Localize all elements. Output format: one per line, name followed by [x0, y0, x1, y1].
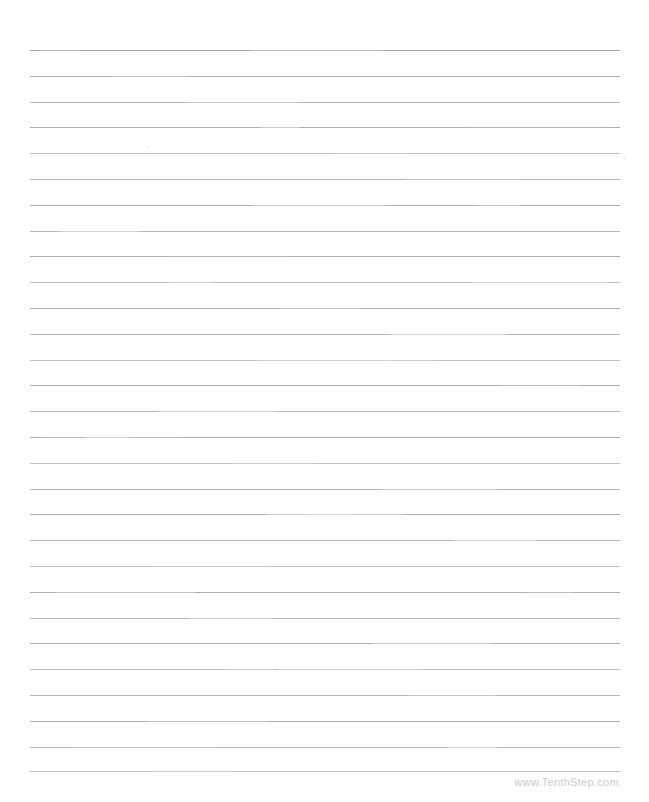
rule-line-fade-segment — [226, 669, 274, 670]
rule-line — [30, 127, 620, 128]
rule-line-fade-segment — [188, 618, 272, 619]
rule-line-fade-segment — [453, 540, 536, 541]
rule-line-fade-segment — [472, 282, 606, 283]
rule-line-fade-segment — [390, 334, 507, 335]
rule-line — [30, 282, 620, 283]
rule-line — [30, 360, 620, 361]
rule-line — [30, 463, 620, 464]
rule-line — [30, 669, 620, 670]
rule-line — [30, 721, 620, 722]
rule-line-fade-segment — [405, 179, 520, 180]
rule-line-fade-segment — [410, 695, 495, 696]
rule-line-fade-segment — [448, 747, 497, 748]
rule-line-fade-segment — [279, 669, 418, 670]
rule-line-fade-segment — [40, 50, 80, 51]
rule-line — [30, 695, 620, 696]
rule-line-fade-segment — [113, 76, 190, 77]
rule-line — [30, 514, 620, 515]
rule-line-fade-segment — [332, 153, 410, 154]
rule-line — [30, 205, 620, 206]
rule-line-fade-segment — [186, 102, 300, 103]
rule-line-fade-segment — [251, 50, 382, 51]
rule-line — [30, 102, 620, 103]
rule-line-fade-segment — [44, 437, 180, 438]
rule-line — [30, 256, 620, 257]
rule-line-fade-segment — [470, 127, 602, 128]
rule-line — [30, 76, 620, 77]
rule-line-fade-segment — [527, 592, 574, 593]
rule-line-fade-segment — [379, 489, 498, 490]
rule-line — [30, 747, 620, 748]
rule-line-fade-segment — [478, 205, 520, 206]
rule-line — [30, 540, 620, 541]
rule-line-fade-segment — [232, 463, 314, 464]
rule-line — [30, 771, 620, 772]
rule-line-fade-segment — [266, 514, 403, 515]
rule-line-fade-segment — [259, 127, 300, 128]
rule-line-fade-segment — [148, 771, 234, 772]
rule-line — [30, 489, 620, 490]
rule-line — [30, 566, 620, 567]
rule-line — [30, 334, 620, 335]
rule-line-fade-segment — [60, 231, 139, 232]
rule-line — [30, 153, 620, 154]
rule-line — [30, 618, 620, 619]
rule-line-fade-segment — [146, 721, 268, 722]
rule-line — [30, 437, 620, 438]
rule-line-fade-segment — [252, 205, 385, 206]
rule-line-fade-segment — [170, 282, 213, 283]
rule-line — [30, 179, 620, 180]
rule-line-fade-segment — [150, 566, 270, 567]
rule-line-fade-segment — [72, 747, 212, 748]
rule-line — [30, 643, 620, 644]
ruled-lines-group — [0, 0, 649, 802]
rule-line — [30, 385, 620, 386]
rule-line-fade-segment — [170, 256, 286, 257]
rule-line-fade-segment — [280, 308, 360, 309]
rule-line — [30, 50, 620, 51]
rule-line-fade-segment — [257, 360, 392, 361]
footer-website-label: www.TenthStep.com — [514, 776, 619, 788]
rule-line-fade-segment — [56, 592, 194, 593]
rule-line — [30, 592, 620, 593]
rule-line — [30, 231, 620, 232]
rule-line-fade-segment — [372, 643, 493, 644]
rule-line-fade-segment — [500, 385, 581, 386]
rule-line — [30, 411, 620, 412]
lined-paper-page: www.TenthStep.com — [0, 0, 649, 802]
rule-line-fade-segment — [158, 411, 276, 412]
page-footer: www.TenthStep.com — [514, 776, 619, 788]
rule-line-fade-segment — [390, 360, 434, 361]
rule-line — [30, 308, 620, 309]
